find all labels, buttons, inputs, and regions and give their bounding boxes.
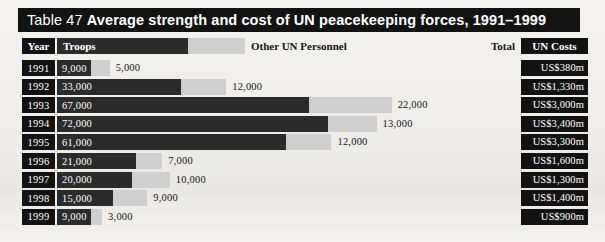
row-year-label: 1996 <box>22 153 55 169</box>
bar-troops: 67,000 <box>57 97 309 113</box>
legend-other-swatch <box>188 38 245 54</box>
bar-troops-value: 33,000 <box>57 81 92 92</box>
bar-other-value: 7,000 <box>168 153 193 169</box>
bar-troops: 72,000 <box>57 116 328 132</box>
bar-other-personnel <box>113 190 147 206</box>
bar-troops-value: 15,000 <box>57 193 92 204</box>
row-year-label: 1998 <box>22 190 55 206</box>
bar-other-value: 12,000 <box>337 134 367 150</box>
bar-troops-value: 72,000 <box>57 118 92 129</box>
bar-other-value: 5,000 <box>116 60 141 76</box>
row-year-label: 1995 <box>22 134 55 150</box>
row-year-label: 1991 <box>22 60 55 76</box>
bar-other-value: 13,000 <box>383 116 413 132</box>
bar-other-value: 3,000 <box>108 209 133 225</box>
bar-troops-value: 20,000 <box>57 174 92 185</box>
bar-other-personnel <box>136 153 162 169</box>
bar-other-personnel <box>309 97 392 113</box>
legend-other-label: Other UN Personnel <box>251 38 347 54</box>
bar-troops-value: 61,000 <box>57 137 92 148</box>
bar-troops: 20,000 <box>57 172 132 188</box>
bar-other-personnel <box>328 116 377 132</box>
legend-troops-label: Troops <box>57 40 96 52</box>
row-un-cost-value: US$1,600m <box>521 153 588 169</box>
row-year-label: 1994 <box>22 116 55 132</box>
bar-other-personnel <box>91 60 110 76</box>
bar-troops: 9,000 <box>57 60 91 76</box>
row-un-cost-value: US$1,300m <box>521 172 588 188</box>
row-un-cost-value: US$3,400m <box>521 116 588 132</box>
row-year-label: 1997 <box>22 172 55 188</box>
row-year-label: 1999 <box>22 209 55 225</box>
table-title: Table 47 Average strength and cost of UN… <box>18 12 546 28</box>
bar-troops-value: 9,000 <box>57 63 87 74</box>
column-header-un-costs: UN Costs <box>521 38 588 54</box>
bar-other-personnel <box>91 209 102 225</box>
bar-other-personnel <box>286 134 331 150</box>
row-un-cost-value: US$3,000m <box>521 97 588 113</box>
bar-troops: 15,000 <box>57 190 113 206</box>
bar-other-value: 9,000 <box>153 190 178 206</box>
bar-other-value: 12,000 <box>232 79 262 95</box>
bar-other-personnel <box>181 79 226 95</box>
row-un-cost-value: US$1,330m <box>521 79 588 95</box>
row-un-cost-value: US$380m <box>521 60 588 76</box>
table-title-text: Average strength and cost of UN peacekee… <box>87 12 546 28</box>
row-year-label: 1992 <box>22 79 55 95</box>
table-title-bar: Table 47 Average strength and cost of UN… <box>18 8 580 32</box>
bar-other-value: 10,000 <box>176 172 206 188</box>
row-un-cost-value: US$1,400m <box>521 190 588 206</box>
bar-troops: 61,000 <box>57 134 286 150</box>
bar-other-value: 22,000 <box>398 97 428 113</box>
bar-other-personnel <box>132 172 170 188</box>
column-header-year: Year <box>22 38 55 54</box>
legend-troops: Troops <box>57 38 188 54</box>
column-header-total: Total <box>455 38 515 54</box>
row-year-label: 1993 <box>22 97 55 113</box>
table-sheet: Table 47 Average strength and cost of UN… <box>0 0 605 242</box>
bar-troops: 9,000 <box>57 209 91 225</box>
bar-troops-value: 67,000 <box>57 100 92 111</box>
bar-troops: 33,000 <box>57 79 181 95</box>
bar-troops-value: 9,000 <box>57 211 87 222</box>
row-un-cost-value: US$900m <box>521 209 588 225</box>
bar-troops: 21,000 <box>57 153 136 169</box>
table-number: Table 47 <box>27 12 83 28</box>
bar-troops-value: 21,000 <box>57 156 92 167</box>
row-un-cost-value: US$3,300m <box>521 134 588 150</box>
